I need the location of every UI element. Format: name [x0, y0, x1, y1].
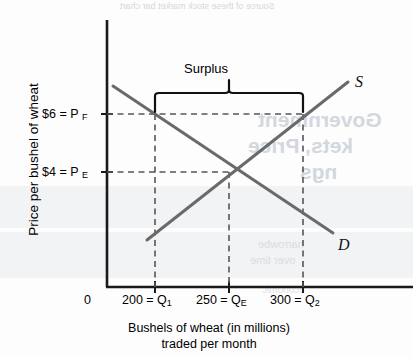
y-axis-title: Price per bushel of wheat: [26, 65, 41, 255]
y-tick-label-price-floor-main: $6 = P: [42, 107, 79, 121]
x-axis-title: Bushels of wheat (in millions) traded pe…: [104, 320, 314, 352]
x-axis-title-line1: Bushels of wheat (in millions): [128, 321, 290, 335]
y-tick-label-price-equilibrium-main: $4 = P: [42, 165, 79, 179]
x-tick-label-q2: 300 = Q2: [270, 293, 320, 308]
x-tick-label-q1-main: 200 = Q: [122, 293, 167, 307]
x-tick-label-q2-subscript: 2: [315, 298, 320, 308]
y-tick-label-price-equilibrium-subscript: E: [82, 170, 88, 180]
x-tick-label-zero: 0: [84, 293, 91, 307]
x-tick-label-q2-main: 300 = Q: [270, 293, 315, 307]
y-tick-label-price-floor: $6 = P F: [42, 106, 88, 122]
x-tick-label-qe-subscript: E: [241, 298, 247, 308]
x-axis-title-line2: traded per month: [161, 337, 256, 351]
y-tick-label-price-floor-subscript: F: [82, 112, 88, 122]
supply-curve: [147, 82, 348, 240]
surplus-bracket: [155, 80, 303, 112]
figure-container: Source of these stock market bar chart G…: [0, 0, 413, 358]
x-tick-label-q1-subscript: 1: [167, 298, 172, 308]
x-tick-label-qe: 250 = QE: [196, 293, 247, 308]
surplus-annotation-label: Surplus: [184, 61, 228, 76]
axis-lines: [106, 20, 413, 287]
demand-curve: [113, 86, 333, 233]
x-tick-label-q1: 200 = Q1: [122, 293, 172, 308]
supply-curve-label: S: [355, 73, 363, 91]
demand-curve-label: D: [338, 236, 350, 254]
y-tick-label-price-equilibrium: $4 = P E: [42, 164, 88, 180]
x-tick-label-qe-main: 250 = Q: [196, 293, 241, 307]
surplus-bracket-path: [155, 80, 303, 112]
